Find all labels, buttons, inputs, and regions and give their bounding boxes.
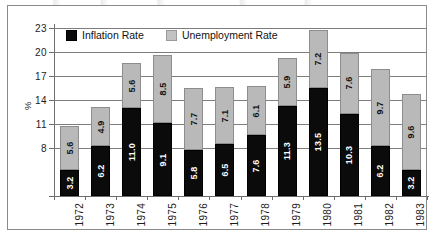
y-axis-tick-label: 17 — [35, 71, 47, 82]
x-axis-tick — [303, 196, 304, 200]
y-axis-tick-label: 8 — [41, 143, 47, 154]
x-axis-tick — [241, 196, 242, 200]
chart-figure: % 811141720235.63.24.96.25.611.08.59.17.… — [7, 5, 427, 230]
x-axis-category-label: 1981 — [353, 203, 364, 226]
x-axis-category-label: 1979 — [291, 203, 302, 226]
x-axis-tick — [427, 196, 428, 200]
legend-label-unemployment: Unemployment Rate — [182, 29, 278, 41]
x-axis-tick — [334, 196, 335, 200]
x-axis-category-label: 1980 — [322, 203, 333, 226]
x-axis-tick — [54, 196, 55, 200]
y-axis-tick-label: 14 — [35, 95, 47, 106]
y-axis-title: % — [22, 102, 33, 110]
chart-legend: Inflation Rate Unemployment Rate — [66, 29, 278, 41]
x-axis-category-label: 1974 — [136, 203, 147, 226]
x-axis-tick — [396, 196, 397, 200]
black-square-icon — [66, 30, 77, 41]
x-axis-category-label: 1975 — [167, 203, 178, 226]
x-axis-tick — [147, 196, 148, 200]
y-axis-tick-label: 11 — [36, 119, 47, 130]
x-axis-tick — [209, 196, 210, 200]
x-axis-tick — [116, 196, 117, 200]
x-axis-tick — [272, 196, 273, 200]
x-axis-category-label: 1982 — [384, 203, 395, 226]
x-axis-category-label: 1976 — [198, 203, 209, 226]
x-axis-tick — [178, 196, 179, 200]
legend-item-unemployment: Unemployment Rate — [166, 29, 278, 41]
y-axis-tick-label: 23 — [35, 23, 47, 34]
x-axis-tick — [85, 196, 86, 200]
x-axis-category-label: 1972 — [74, 203, 85, 226]
x-axis-category-label: 1978 — [260, 203, 271, 226]
legend-item-inflation: Inflation Rate — [66, 29, 144, 41]
x-axis-category-label: 1973 — [105, 203, 116, 226]
y-axis-tick-label: 20 — [35, 47, 47, 58]
x-axis-category-label: 1983 — [415, 203, 426, 226]
x-axis-tick — [365, 196, 366, 200]
x-axis-category-label: 1977 — [229, 203, 240, 226]
legend-label-inflation: Inflation Rate — [82, 29, 144, 41]
gray-square-icon — [166, 30, 177, 41]
